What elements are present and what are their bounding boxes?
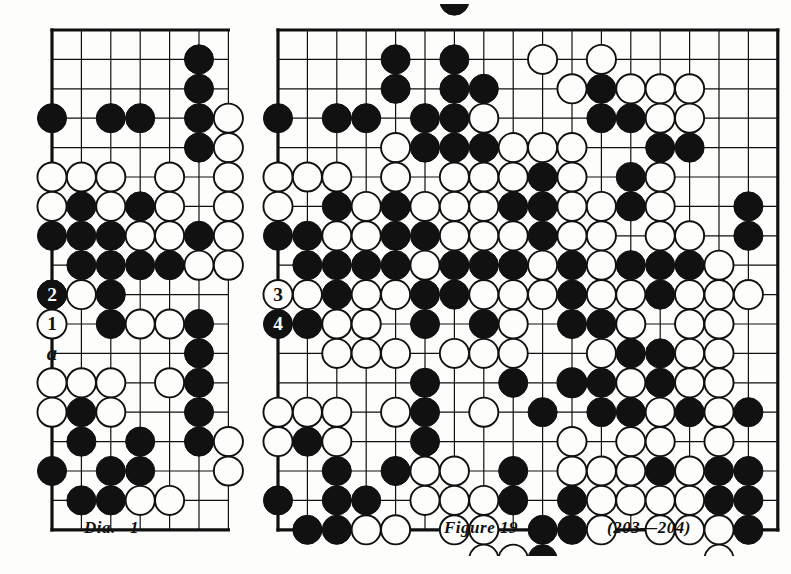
white-stone[interactable] bbox=[381, 398, 410, 427]
black-stone[interactable] bbox=[410, 133, 439, 162]
white-stone[interactable] bbox=[381, 280, 410, 309]
black-stone[interactable] bbox=[410, 280, 439, 309]
black-stone[interactable] bbox=[96, 251, 125, 280]
white-stone[interactable] bbox=[440, 339, 469, 368]
white-stone[interactable] bbox=[557, 133, 586, 162]
white-stone[interactable] bbox=[469, 104, 498, 133]
black-stone[interactable] bbox=[675, 398, 704, 427]
black-stone[interactable] bbox=[381, 74, 410, 103]
white-stone[interactable] bbox=[587, 251, 616, 280]
white-stone[interactable] bbox=[126, 221, 155, 250]
white-stone[interactable] bbox=[587, 339, 616, 368]
white-stone[interactable] bbox=[214, 133, 243, 162]
black-stone[interactable] bbox=[734, 515, 763, 544]
black-stone[interactable] bbox=[499, 192, 528, 221]
black-stone[interactable] bbox=[410, 398, 439, 427]
white-stone[interactable] bbox=[322, 398, 351, 427]
black-stone[interactable] bbox=[293, 515, 322, 544]
black-stone[interactable] bbox=[587, 368, 616, 397]
point-label-b[interactable]: b bbox=[106, 313, 116, 335]
go-board-dia-1[interactable]: 12ba bbox=[30, 4, 252, 556]
black-stone[interactable] bbox=[734, 456, 763, 485]
black-stone[interactable] bbox=[126, 427, 155, 456]
white-stone[interactable] bbox=[646, 398, 675, 427]
black-stone[interactable] bbox=[410, 221, 439, 250]
black-stone[interactable] bbox=[616, 192, 645, 221]
white-stone[interactable] bbox=[381, 162, 410, 191]
white-stone[interactable] bbox=[410, 456, 439, 485]
black-stone[interactable] bbox=[184, 221, 213, 250]
move-3-white[interactable]: 3 bbox=[263, 280, 292, 309]
white-stone[interactable] bbox=[410, 251, 439, 280]
go-board-figure-19[interactable]: 34C bbox=[256, 4, 791, 556]
black-stone[interactable] bbox=[587, 74, 616, 103]
black-stone[interactable] bbox=[499, 486, 528, 515]
black-stone[interactable] bbox=[67, 192, 96, 221]
black-stone[interactable] bbox=[184, 45, 213, 74]
white-stone[interactable] bbox=[704, 427, 733, 456]
white-stone[interactable] bbox=[322, 162, 351, 191]
white-stone[interactable] bbox=[704, 309, 733, 338]
black-stone[interactable] bbox=[184, 309, 213, 338]
black-stone[interactable] bbox=[322, 280, 351, 309]
black-stone[interactable] bbox=[734, 221, 763, 250]
black-stone[interactable] bbox=[704, 486, 733, 515]
white-stone[interactable] bbox=[469, 221, 498, 250]
white-stone[interactable] bbox=[675, 74, 704, 103]
black-stone[interactable] bbox=[528, 221, 557, 250]
black-stone[interactable] bbox=[184, 74, 213, 103]
white-stone[interactable] bbox=[557, 192, 586, 221]
black-stone[interactable] bbox=[528, 398, 557, 427]
black-stone[interactable] bbox=[646, 251, 675, 280]
black-stone[interactable] bbox=[528, 515, 557, 544]
white-stone[interactable] bbox=[37, 398, 66, 427]
black-stone[interactable] bbox=[557, 280, 586, 309]
white-stone[interactable] bbox=[587, 456, 616, 485]
move-1-white[interactable]: 1 bbox=[37, 309, 66, 338]
black-stone[interactable] bbox=[322, 456, 351, 485]
point-label-c[interactable]: C bbox=[301, 313, 315, 335]
black-stone[interactable] bbox=[440, 45, 469, 74]
black-stone[interactable] bbox=[96, 456, 125, 485]
white-stone[interactable] bbox=[499, 221, 528, 250]
black-stone[interactable] bbox=[37, 456, 66, 485]
white-stone[interactable] bbox=[184, 251, 213, 280]
black-stone[interactable] bbox=[469, 133, 498, 162]
white-stone[interactable] bbox=[646, 486, 675, 515]
black-stone[interactable] bbox=[557, 486, 586, 515]
black-stone[interactable] bbox=[126, 456, 155, 485]
white-stone[interactable] bbox=[263, 162, 292, 191]
white-stone[interactable] bbox=[704, 398, 733, 427]
black-stone[interactable] bbox=[440, 4, 469, 15]
white-stone[interactable] bbox=[646, 162, 675, 191]
white-stone[interactable] bbox=[469, 192, 498, 221]
white-stone[interactable] bbox=[440, 456, 469, 485]
white-stone[interactable] bbox=[646, 104, 675, 133]
black-stone[interactable] bbox=[440, 251, 469, 280]
white-stone[interactable] bbox=[675, 280, 704, 309]
white-stone[interactable] bbox=[96, 162, 125, 191]
black-stone[interactable] bbox=[440, 74, 469, 103]
black-stone[interactable] bbox=[352, 486, 381, 515]
black-stone[interactable] bbox=[499, 251, 528, 280]
black-stone[interactable] bbox=[704, 456, 733, 485]
white-stone[interactable] bbox=[734, 280, 763, 309]
black-stone[interactable] bbox=[469, 309, 498, 338]
white-stone[interactable] bbox=[675, 221, 704, 250]
white-stone[interactable] bbox=[616, 486, 645, 515]
white-stone[interactable] bbox=[528, 133, 557, 162]
black-stone[interactable] bbox=[263, 221, 292, 250]
black-stone[interactable] bbox=[155, 251, 184, 280]
white-stone[interactable] bbox=[616, 427, 645, 456]
white-stone[interactable] bbox=[616, 368, 645, 397]
black-stone[interactable] bbox=[528, 192, 557, 221]
white-stone[interactable] bbox=[675, 104, 704, 133]
white-stone[interactable] bbox=[410, 192, 439, 221]
black-stone[interactable] bbox=[499, 368, 528, 397]
white-stone[interactable] bbox=[499, 133, 528, 162]
white-stone[interactable] bbox=[96, 368, 125, 397]
white-stone[interactable] bbox=[381, 515, 410, 544]
white-stone[interactable] bbox=[155, 486, 184, 515]
black-stone[interactable] bbox=[616, 339, 645, 368]
white-stone[interactable] bbox=[214, 162, 243, 191]
